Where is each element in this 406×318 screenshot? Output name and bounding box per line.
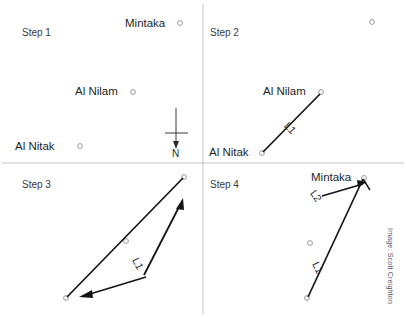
panel-title-step3: Step 3 [22, 180, 51, 190]
star-marker-alnilam-step1 [131, 90, 136, 95]
star-marker-alnitak-step1 [78, 144, 83, 149]
star-label-mintaka-step1: Mintaka [125, 18, 165, 30]
star-marker-alnilam-step4 [308, 241, 313, 246]
measure-arrowhead-upper-step3 [176, 198, 184, 210]
star-label-alnilam-step1: Al Nilam [75, 86, 118, 98]
panel-title-step4: Step 4 [210, 180, 239, 190]
segment-l1-line-step3 [67, 178, 183, 297]
star-label-mintaka-step4: Mintaka [311, 172, 351, 184]
star-marker-mintaka-step2 [370, 20, 375, 25]
measure-arm-upper-step3 [144, 205, 180, 275]
diagram-canvas [0, 0, 406, 318]
star-label-alnitak-step1: Al Nitak [15, 141, 55, 153]
l2-tick-step4 [363, 179, 370, 190]
panel-title-step2: Step 2 [210, 28, 239, 38]
star-marker-mintaka-step1 [178, 21, 183, 26]
measure-arrow-l1-step3 [79, 198, 184, 298]
panel-title-step1: Step 1 [22, 28, 51, 38]
image-credit: Image: Scott Creighton [387, 228, 394, 304]
measure-arm-lower-step3 [90, 277, 146, 294]
star-label-alnitak-step2: Al Nitak [209, 147, 249, 159]
measure-arrowhead-lower-step3 [79, 290, 93, 298]
star-label-alnilam-step2: Al Nilam [263, 86, 306, 98]
orion-belt-alignment-diagram: Step 1 Mintaka Al Nilam Al Nitak N Step … [0, 0, 406, 318]
compass-rose [165, 108, 188, 149]
compass-label-north: N [172, 149, 179, 159]
